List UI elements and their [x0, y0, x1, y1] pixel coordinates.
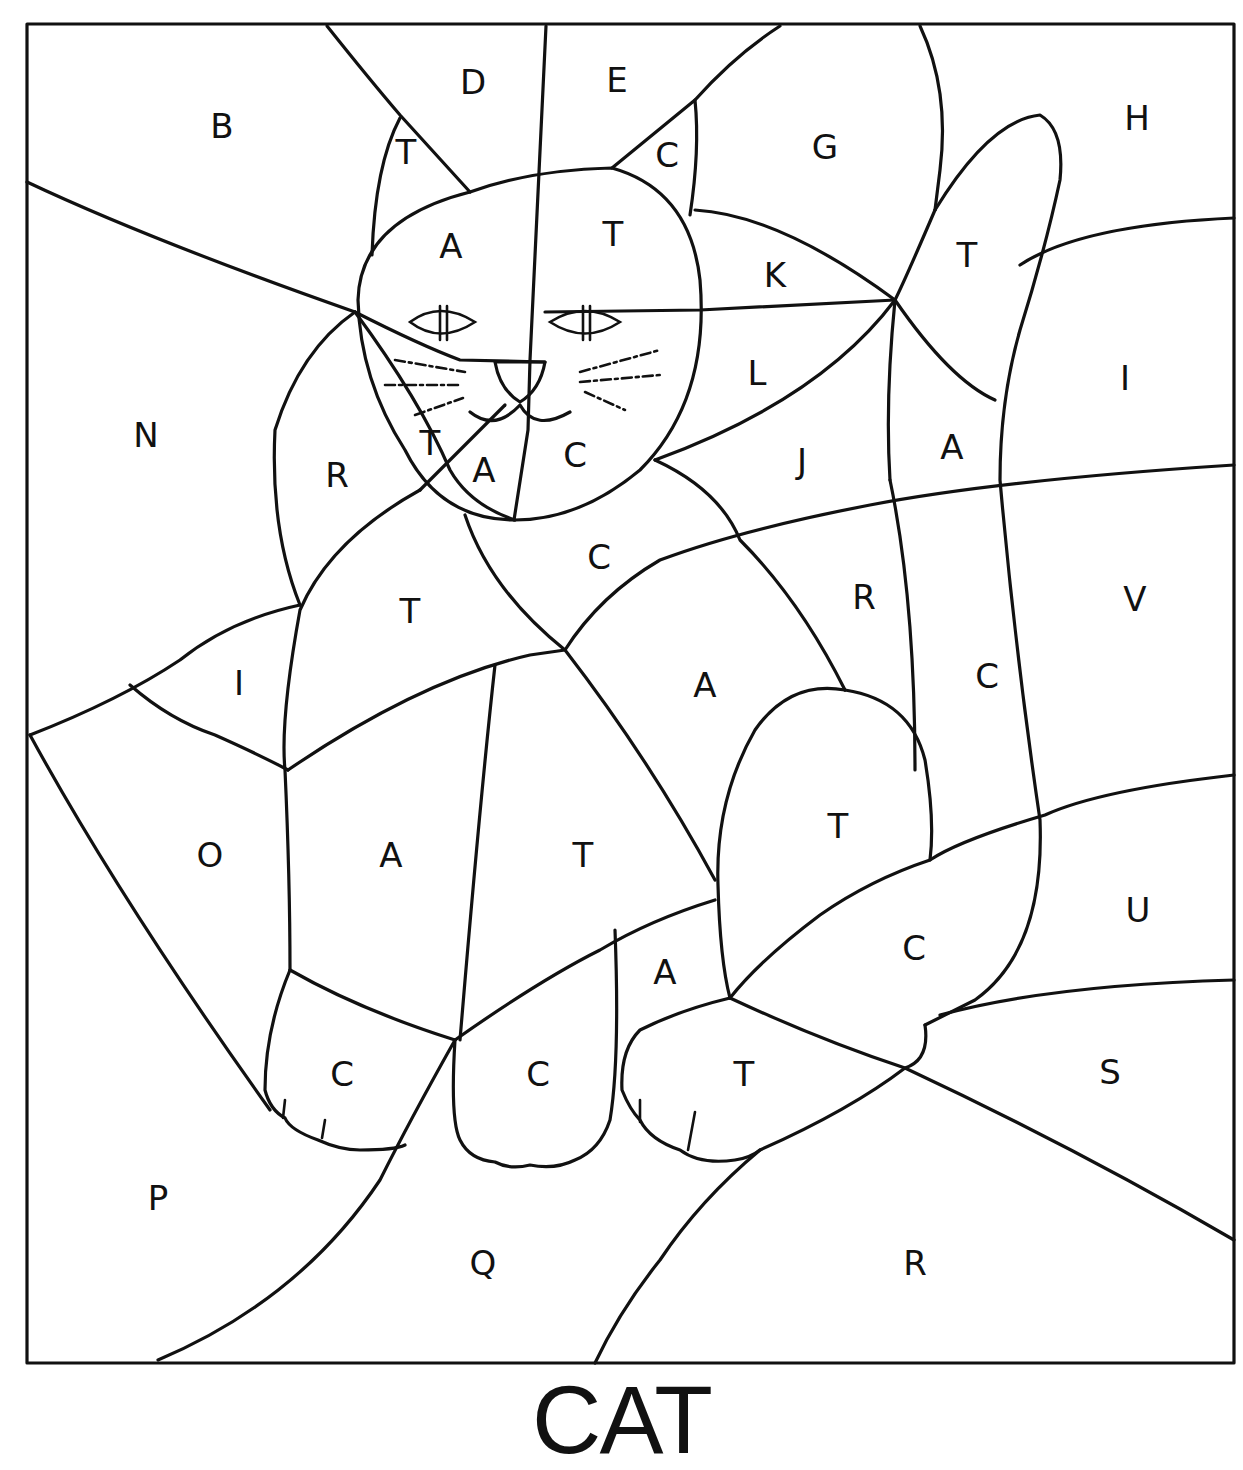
region-label-l: L [748, 356, 767, 390]
region-label-t: T [734, 1057, 755, 1091]
region-label-r: R [852, 580, 876, 614]
line-k-l [545, 300, 895, 312]
coloring-page: BDETCGHATKTNLITACRJACTRVIACOATTUACCCTSPQ… [0, 0, 1243, 1470]
region-label-v: V [1123, 582, 1146, 616]
region-label-n: N [133, 418, 158, 452]
region-label-t: T [603, 217, 624, 251]
region-label-c: C [563, 438, 587, 472]
whisker-right-2 [580, 375, 660, 382]
region-label-b: B [210, 109, 233, 143]
line-s-boundary [940, 980, 1234, 1015]
whisker-right-1 [580, 350, 660, 372]
region-label-t: T [400, 594, 421, 628]
region-label-q: Q [470, 1246, 497, 1280]
mouth-icon [470, 405, 570, 421]
region-label-i: I [1120, 361, 1130, 395]
line-eg [695, 26, 780, 100]
region-label-c: C [587, 540, 611, 574]
line-de-center [514, 26, 546, 520]
region-label-t: T [420, 426, 441, 460]
whisker-left-1 [395, 360, 465, 372]
nose-icon [495, 362, 545, 402]
region-label-a: A [439, 229, 462, 263]
region-label-g: G [812, 130, 838, 164]
line-u-v [730, 775, 1234, 998]
region-label-a: A [940, 430, 963, 464]
region-label-t: T [396, 135, 417, 169]
line-tail-cross [895, 300, 995, 400]
line-n-b [27, 182, 545, 362]
region-label-c: C [526, 1057, 550, 1091]
region-label-h: H [1124, 101, 1150, 135]
region-label-t: T [957, 238, 978, 272]
line-i-top [30, 605, 300, 735]
front-paw-left [453, 930, 616, 1167]
line-p-q [158, 1040, 455, 1360]
region-label-d: D [460, 65, 486, 99]
right-eye-icon [550, 311, 620, 334]
line-o-p [30, 735, 270, 1110]
line-s-top [595, 1025, 926, 1363]
line-chest-right [655, 460, 845, 690]
region-label-c: C [655, 138, 679, 172]
line-haunch [290, 970, 455, 1040]
region-label-i: I [234, 666, 244, 700]
region-label-t: T [828, 809, 849, 843]
front-leg [718, 688, 845, 998]
region-label-c: C [975, 659, 999, 693]
line-gh [920, 26, 943, 210]
region-label-o: O [197, 838, 224, 872]
region-label-k: K [764, 258, 786, 292]
region-label-c: C [902, 931, 926, 965]
line-a-t-split [460, 665, 495, 1040]
region-label-u: U [1126, 893, 1151, 927]
region-label-a: A [379, 838, 402, 872]
region-label-a: A [472, 453, 495, 487]
region-label-j: J [797, 444, 807, 478]
front-paw-right-toe [640, 1100, 695, 1150]
region-label-p: P [148, 1181, 169, 1215]
tail-outline [925, 115, 1061, 1025]
region-label-c: C [330, 1057, 354, 1091]
region-label-r: R [325, 458, 349, 492]
line-kg [695, 210, 895, 300]
front-leg-right [845, 690, 932, 860]
line-i-h [1020, 218, 1234, 265]
frame-border [27, 24, 1234, 1363]
region-label-e: E [606, 63, 627, 97]
region-label-a: A [693, 668, 716, 702]
region-label-a: A [653, 955, 676, 989]
left-eye-icon [410, 311, 475, 334]
region-label-t: T [573, 838, 594, 872]
line-t-s [730, 998, 1234, 1240]
region-label-s: S [1099, 1055, 1121, 1089]
region-label-r: R [903, 1246, 927, 1280]
whisker-right-3 [585, 392, 625, 410]
line-i-bottom [130, 685, 288, 770]
page-title: CAT [0, 1372, 1243, 1468]
left-paw-toe [283, 1100, 325, 1138]
